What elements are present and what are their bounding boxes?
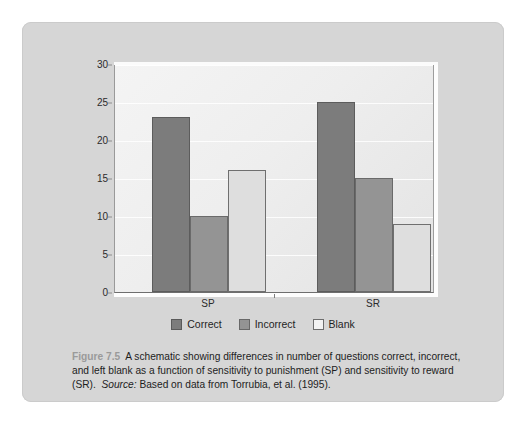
y-tick-mark — [108, 217, 112, 218]
x-tick-label-sr: SR — [366, 298, 380, 309]
bar-chart: 051015202530 SPSR CorrectIncorrectBlank — [22, 22, 504, 314]
y-tick-label: 20 — [97, 136, 108, 146]
y-tick-mark — [108, 65, 112, 66]
legend-swatch-blank-icon — [313, 319, 324, 330]
y-tick-mark — [108, 293, 112, 294]
legend-item-correct[interactable]: Correct — [171, 319, 221, 330]
legend-swatch-correct-icon — [171, 319, 182, 330]
caption-source-text: Based on data from Torrubia, et al. (199… — [139, 379, 330, 390]
plot-bottom-highlight — [114, 293, 438, 297]
bar-incorrect-sr — [355, 178, 393, 292]
legend-item-blank[interactable]: Blank — [313, 319, 355, 330]
gridline — [115, 103, 433, 104]
bar-blank-sr — [393, 224, 431, 292]
legend-label-blank: Blank — [329, 319, 355, 330]
y-tick-label: 30 — [97, 60, 108, 70]
figure-panel: 051015202530 SPSR CorrectIncorrectBlank … — [22, 22, 504, 402]
legend-label-correct: Correct — [187, 319, 221, 330]
x-tick-label-sp: SP — [201, 298, 214, 309]
y-tick-label: 25 — [97, 98, 108, 108]
plot-area — [114, 65, 434, 293]
chart-legend: CorrectIncorrectBlank — [22, 319, 504, 330]
legend-item-incorrect[interactable]: Incorrect — [239, 319, 296, 330]
plot-right-highlight — [434, 65, 438, 297]
bar-incorrect-sp — [190, 216, 228, 292]
bar-blank-sp — [228, 170, 266, 292]
y-tick-label: 15 — [97, 174, 108, 184]
y-tick-mark — [108, 255, 112, 256]
y-tick-mark — [108, 103, 112, 104]
legend-label-incorrect: Incorrect — [255, 319, 296, 330]
caption-source-label: Source: — [101, 379, 136, 390]
bar-correct-sp — [152, 117, 190, 292]
y-tick-label: 10 — [97, 212, 108, 222]
figure-caption: Figure 7.5 A schematic showing differenc… — [72, 350, 466, 392]
y-tick-mark — [108, 179, 112, 180]
y-tick-mark — [108, 141, 112, 142]
x-axis-tick-mid — [274, 294, 275, 298]
gridline — [115, 65, 433, 66]
bar-correct-sr — [317, 102, 355, 292]
legend-swatch-incorrect-icon — [239, 319, 250, 330]
y-axis: 051015202530 — [80, 65, 108, 293]
figure-number: Figure 7.5 — [72, 351, 120, 362]
